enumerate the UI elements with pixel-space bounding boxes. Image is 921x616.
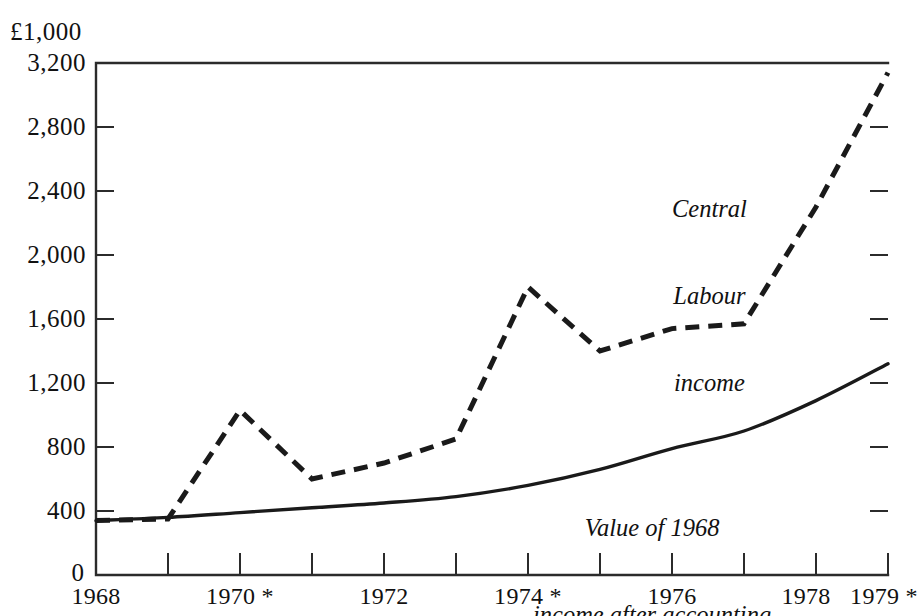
series-line-value-after-inflation [96, 364, 888, 521]
axes-group [96, 63, 888, 575]
series-line-central-labour-income [96, 73, 888, 521]
x-tick-marks [96, 553, 888, 575]
chart-container: £1,000 400 800 1,200 1,600 2,000 2,400 2… [0, 0, 921, 616]
axis-frame [96, 63, 888, 575]
plot-area [0, 0, 921, 616]
